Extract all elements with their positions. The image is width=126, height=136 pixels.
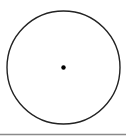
center-point (61, 65, 65, 69)
circle-diagram (0, 0, 126, 136)
